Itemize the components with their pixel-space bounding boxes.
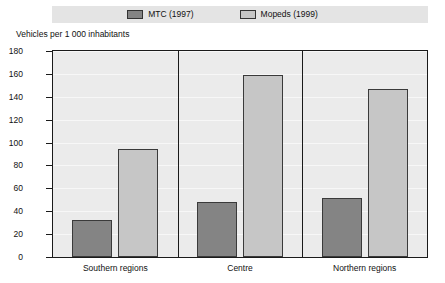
y-axis-tick-label: 180 [9, 47, 23, 56]
y-axis-tick-mark [46, 143, 52, 144]
y-axis-tick-label: 80 [14, 161, 23, 170]
legend-entry-mopeds[interactable]: Mopeds (1999) [240, 10, 318, 19]
y-axis-tick-label: 0 [18, 253, 23, 262]
y-axis-tick-mark [46, 74, 52, 75]
legend-swatch-mopeds [240, 10, 256, 19]
y-axis-tick-mark [46, 51, 52, 52]
y-axis-tick-mark [46, 97, 52, 98]
y-axis-tick-mark [46, 211, 52, 212]
x-axis-tick-label: Northern regions [333, 264, 396, 273]
bar-mopeds-1 [243, 75, 283, 257]
bar-mopeds-0 [118, 149, 158, 257]
y-axis-tick-label: 140 [9, 93, 23, 102]
y-axis-tick-label: 120 [9, 115, 23, 124]
y-axis-tick-label: 160 [9, 70, 23, 79]
y-axis-tick-mark [46, 165, 52, 166]
plot-inner [53, 51, 427, 257]
y-axis-tick-label: 60 [14, 184, 23, 193]
legend-label-mtc: MTC (1997) [148, 10, 193, 19]
legend-entry-mtc[interactable]: MTC (1997) [127, 10, 193, 19]
x-axis-tick-label: Southern regions [83, 264, 148, 273]
legend-label-mopeds: Mopeds (1999) [261, 10, 318, 19]
bar-mopeds-2 [368, 89, 408, 257]
chart-legend: MTC (1997)Mopeds (1999) [0, 6, 445, 23]
legend-swatch-mtc [127, 10, 143, 19]
bar-mtc-0 [72, 220, 112, 257]
gridline [53, 74, 427, 75]
category-separator [178, 51, 179, 257]
bar-mtc-1 [197, 202, 237, 257]
plot-area [52, 50, 428, 258]
y-axis-tick-mark [46, 188, 52, 189]
y-axis-tick-mark [46, 234, 52, 235]
y-axis-tick-mark [46, 120, 52, 121]
y-axis-tick-label: 40 [14, 207, 23, 216]
bar-mtc-2 [322, 198, 362, 258]
y-axis-tick-label: 100 [9, 138, 23, 147]
category-separator [302, 51, 303, 257]
y-axis-tick-mark [46, 257, 52, 258]
y-axis-title: Vehicles per 1 000 inhabitants [16, 30, 129, 39]
x-axis-tick-label: Centre [227, 264, 253, 273]
y-axis-tick-label: 20 [14, 230, 23, 239]
gridline [53, 51, 427, 52]
